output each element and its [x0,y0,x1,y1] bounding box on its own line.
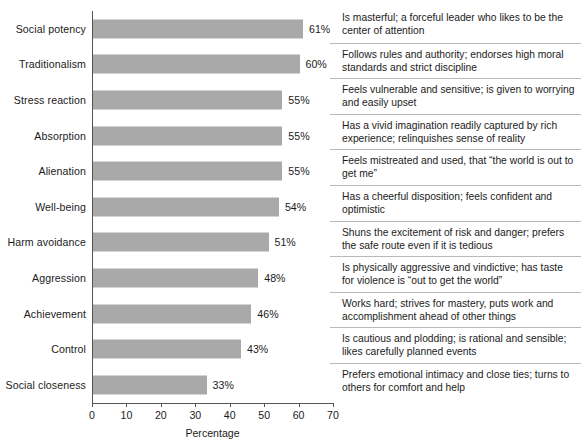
category-label: Traditionalism [0,58,86,70]
x-tick-label: 30 [189,409,201,421]
category-label: Absorption [0,130,86,142]
bar [93,375,207,394]
bar [93,90,282,109]
x-axis-title: Percentage [92,427,333,439]
bar-value-label: 46% [257,308,278,320]
bar-value-label: 54% [285,201,306,213]
bar-value-label: 48% [264,272,285,284]
trait-description-cell: Is cautious and plodding; is rational an… [330,327,581,363]
bar [93,197,279,216]
trait-description-cell: Is physically aggressive and vindictive;… [330,256,581,292]
trait-description-text: Prefers emotional intimacy and close tie… [342,368,577,394]
trait-description-cell: Follows rules and authority; endorses hi… [330,43,581,79]
x-axis-line [92,403,333,404]
x-tick-mark [195,403,196,407]
category-label: Harm avoidance [0,236,86,248]
trait-description-cell: Feels vulnerable and sensitive; is given… [330,78,581,114]
x-tick-mark [264,403,265,407]
category-label: Aggression [0,272,86,284]
x-tick-label: 10 [121,409,133,421]
category-label: Control [0,343,86,355]
bar [93,55,300,74]
trait-description-cell: Works hard; strives for mastery, puts wo… [330,292,581,328]
x-tick-mark [126,403,127,407]
x-tick-mark [230,403,231,407]
x-tick-mark [333,403,334,407]
bar-value-label: 61% [309,23,330,35]
bar-value-label: 55% [288,130,309,142]
trait-description-text: Is cautious and plodding; is rational an… [342,332,577,358]
x-tick-mark [92,403,93,407]
x-tick-label: 20 [155,409,167,421]
trait-description-cell: Prefers emotional intimacy and close tie… [330,363,581,399]
bar [93,233,269,252]
category-label: Well-being [0,201,86,213]
trait-description-text: Works hard; strives for mastery, puts wo… [342,297,577,323]
personality-traits-bar-chart: Social potency61%Traditionalism60%Stress… [0,0,581,447]
x-tick-label: 60 [293,409,305,421]
trait-description-text: Follows rules and authority; endorses hi… [342,48,577,74]
category-label: Alienation [0,165,86,177]
x-tick-label: 0 [89,409,95,421]
plot-area: Social potency61%Traditionalism60%Stress… [0,0,581,403]
bar-value-label: 51% [275,236,296,248]
trait-description-cell: Shuns the excitement of risk and danger;… [330,221,581,257]
trait-description-text: Has a cheerful disposition; feels confid… [342,190,577,216]
trait-description-text: Feels vulnerable and sensitive; is given… [342,83,577,109]
trait-description-text: Has a vivid imagination readily captured… [342,119,577,145]
bar [93,162,282,181]
bar [93,268,258,287]
category-label: Stress reaction [0,94,86,106]
x-tick-mark [299,403,300,407]
x-tick-label: 70 [327,409,339,421]
x-tick-label: 50 [258,409,270,421]
trait-description-cell: Has a vivid imagination readily captured… [330,114,581,150]
category-label: Social potency [0,23,86,35]
bar [93,304,251,323]
category-label: Social closeness [0,379,86,391]
bar-value-label: 55% [288,94,309,106]
bar-value-label: 33% [213,379,234,391]
bar [93,340,241,359]
trait-description-text: Feels mistreated and used, that “the wor… [342,154,577,180]
trait-description-cell: Is masterful; a forceful leader who like… [330,7,581,43]
category-label: Achievement [0,308,86,320]
x-tick-label: 40 [224,409,236,421]
bar-value-label: 43% [247,343,268,355]
description-panel: Is masterful; a forceful leader who like… [330,0,581,403]
bar [93,19,303,38]
bar [93,126,282,145]
bar-value-label: 60% [306,58,327,70]
trait-description-text: Shuns the excitement of risk and danger;… [342,226,577,252]
x-tick-mark [161,403,162,407]
trait-description-cell: Has a cheerful disposition; feels confid… [330,185,581,221]
trait-description-text: Is physically aggressive and vindictive;… [342,261,577,287]
trait-description-cell: Feels mistreated and used, that “the wor… [330,149,581,185]
bar-value-label: 55% [288,165,309,177]
trait-description-text: Is masterful; a forceful leader who like… [342,11,577,37]
